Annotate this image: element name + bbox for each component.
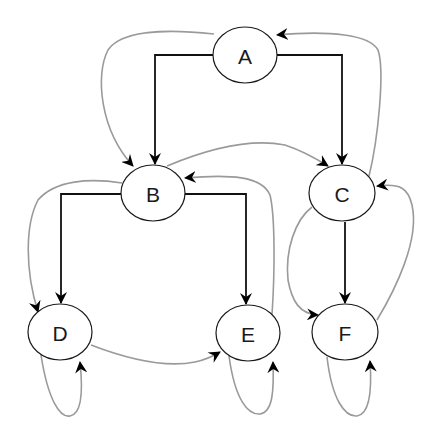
edge-link-f-c <box>377 185 414 320</box>
edge-tree-b-e <box>185 194 246 304</box>
node-d: D <box>28 304 92 360</box>
edge-link-a-b <box>101 31 214 166</box>
node-f-label: F <box>339 322 352 345</box>
edge-link-b-c <box>167 143 328 166</box>
edge-self-loop-f <box>327 357 371 416</box>
node-b-label: B <box>146 183 160 206</box>
edge-self-loop-d <box>41 355 81 416</box>
node-c-label: C <box>334 183 349 206</box>
edge-self-loop-e <box>229 356 273 414</box>
node-e: E <box>216 305 280 361</box>
node-e-label: E <box>241 323 255 346</box>
edge-link-c-f <box>287 207 318 315</box>
tree-edges <box>61 55 345 304</box>
node-c: C <box>309 165 375 221</box>
node-f: F <box>312 304 378 360</box>
node-d-label: D <box>52 322 67 345</box>
edge-tree-b-d <box>61 194 121 303</box>
node-a: A <box>213 27 277 83</box>
edge-link-e-b <box>185 176 274 315</box>
graph-diagram: A B C D E F <box>0 0 439 442</box>
node-a-label: A <box>238 45 252 68</box>
edge-link-b-d <box>28 181 122 312</box>
edge-tree-a-c <box>277 55 342 164</box>
node-b: B <box>121 165 185 221</box>
edge-link-d-e <box>91 345 220 364</box>
edge-tree-a-b <box>155 55 213 164</box>
